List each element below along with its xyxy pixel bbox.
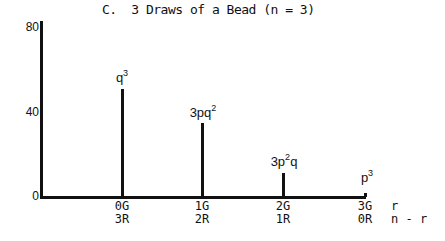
bar-label-q3: q3 bbox=[116, 70, 128, 85]
bar-label-p3: p3 bbox=[361, 170, 373, 185]
row-label-n-minus-r: n - r bbox=[391, 213, 427, 226]
bar-3g bbox=[364, 193, 367, 197]
y-tick-80: 80 bbox=[19, 20, 39, 34]
bar-1g bbox=[201, 123, 204, 197]
x-label-0g: 0G3R bbox=[115, 200, 129, 226]
bar-label-3pq2: 3pq2 bbox=[190, 105, 217, 120]
y-tick-0: 0 bbox=[19, 189, 39, 203]
y-axis bbox=[40, 21, 43, 199]
x-label-3g: 3G0R bbox=[358, 200, 372, 226]
bar-2g bbox=[282, 173, 285, 197]
chart-title: C. 3 Draws of a Bead (n = 3) bbox=[102, 2, 314, 17]
bar-label-3p2q: 3p2q bbox=[271, 154, 298, 169]
x-label-1g: 1G2R bbox=[195, 200, 209, 226]
x-label-2g: 2G1R bbox=[276, 200, 290, 226]
y-tick-40: 40 bbox=[19, 105, 39, 119]
bar-0g bbox=[121, 89, 124, 197]
